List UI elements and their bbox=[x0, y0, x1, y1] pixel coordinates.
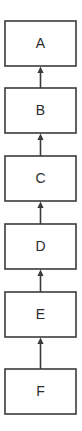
edge-d-to-c bbox=[37, 202, 43, 225]
arrowhead-e-to-d bbox=[37, 270, 43, 277]
node-f[interactable]: F bbox=[5, 369, 76, 414]
flowchart-canvas: A B C D E F bbox=[0, 0, 82, 431]
node-f-label: F bbox=[36, 383, 45, 399]
arrowhead-b-to-a bbox=[37, 67, 43, 74]
arrowhead-f-to-e bbox=[37, 338, 43, 345]
node-e-label: E bbox=[36, 306, 45, 322]
flowchart-diagram: A B C D E F bbox=[0, 0, 82, 431]
arrowhead-d-to-c bbox=[37, 202, 43, 209]
node-c[interactable]: C bbox=[5, 156, 76, 201]
edge-f-to-e bbox=[37, 338, 43, 370]
arrowhead-c-to-b bbox=[37, 134, 43, 141]
node-b-label: B bbox=[36, 102, 45, 118]
node-d-label: D bbox=[35, 238, 45, 254]
node-b[interactable]: B bbox=[5, 88, 76, 133]
edge-e-to-d bbox=[37, 270, 43, 293]
edge-b-to-a bbox=[37, 67, 43, 89]
node-c-label: C bbox=[35, 170, 45, 186]
node-e[interactable]: E bbox=[5, 292, 76, 337]
node-d[interactable]: D bbox=[5, 224, 76, 269]
edge-c-to-b bbox=[37, 134, 43, 157]
node-a-label: A bbox=[36, 35, 46, 51]
node-a[interactable]: A bbox=[5, 21, 76, 66]
